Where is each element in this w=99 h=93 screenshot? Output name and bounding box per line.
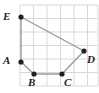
vertex-point-e [18,14,23,19]
vertex-point-a [18,59,23,64]
vertex-label-d: D [87,54,95,65]
vertex-label-c: C [64,77,71,88]
vertex-label-b: B [28,77,35,88]
vertex-label-a: A [3,55,10,66]
vertex-point-d [81,48,86,53]
geometry-figure: EDCBA [0,0,99,93]
figure-canvas [0,0,99,93]
vertex-label-e: E [3,11,10,22]
